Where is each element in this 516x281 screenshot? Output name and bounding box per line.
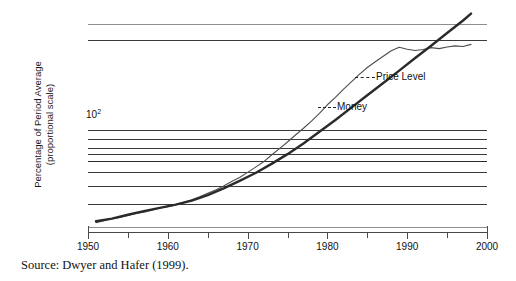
plot-area	[88, 15, 487, 228]
gridline-40	[88, 186, 487, 187]
x-axis-label-1960: 1960	[157, 241, 179, 252]
y-axis-title-line1: Percentage of Period Average	[32, 61, 43, 188]
x-axis-label-1980: 1980	[316, 241, 338, 252]
gridline-20	[88, 227, 487, 228]
x-axis-label-1970: 1970	[236, 241, 258, 252]
x-axis-tick-1985	[367, 232, 368, 238]
x-axis-tick-1970	[248, 232, 249, 239]
x-axis-tick-1975	[288, 232, 289, 238]
gridline-30	[88, 204, 487, 205]
x-axis-tick-1995	[447, 232, 448, 238]
gridline-100	[88, 130, 487, 131]
gridline-70	[88, 154, 487, 155]
gridline-90	[88, 139, 487, 140]
x-axis-tick-2000	[487, 232, 488, 239]
x-axis-tick-1965	[208, 232, 209, 238]
y-axis-title: Percentage of Period Average (proportion…	[32, 35, 55, 215]
x-axis-tick-1980	[327, 232, 328, 239]
gridline-80	[88, 148, 487, 149]
x-axis-label-2000: 2000	[476, 241, 498, 252]
gridline-400	[88, 24, 487, 25]
y-axis-title-line2: (proportional scale)	[43, 35, 55, 215]
source-note: Source: Dwyer and Hafer (1999).	[21, 258, 189, 273]
gridline-60	[88, 161, 487, 162]
x-axis-cap-left	[88, 226, 89, 233]
figure-panel: Percentage of Period Average (proportion…	[0, 0, 516, 281]
x-axis-tick-1955	[128, 232, 129, 238]
x-axis-tick-1950	[88, 232, 89, 239]
x-axis-tick-1960	[168, 232, 169, 239]
x-axis-label-1950: 1950	[77, 241, 99, 252]
gridline-400b	[88, 40, 487, 41]
x-axis-label-1990: 1990	[396, 241, 418, 252]
leader-line-money	[318, 107, 336, 108]
x-axis-tick-1990	[407, 232, 408, 239]
leader-line-price-level	[355, 77, 375, 78]
gridline-50	[88, 172, 487, 173]
annotation-money: Money	[337, 101, 367, 112]
annotation-price-level: Price Level	[376, 71, 425, 82]
x-axis-cap-right	[487, 226, 488, 233]
